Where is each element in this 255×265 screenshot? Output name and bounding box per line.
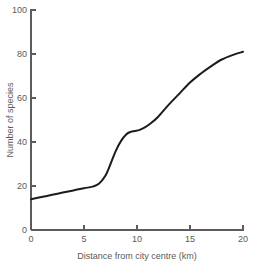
y-tick-label-100: 100 — [12, 5, 27, 15]
chart-canvas: 100 80 60 40 20 0 0 5 10 15 20 Distance … — [0, 0, 255, 265]
x-tick-labels: 0 5 10 15 20 — [28, 234, 248, 244]
x-tick-label-0: 0 — [28, 234, 33, 244]
y-tick-label-60: 60 — [17, 93, 27, 103]
species-distance-chart: 100 80 60 40 20 0 0 5 10 15 20 Distance … — [0, 0, 255, 265]
x-tick-label-5: 5 — [81, 234, 86, 244]
x-tick-marks — [31, 225, 243, 230]
y-tick-marks — [31, 10, 36, 230]
x-tick-label-15: 15 — [185, 234, 195, 244]
y-tick-label-20: 20 — [17, 181, 27, 191]
y-tick-label-80: 80 — [17, 49, 27, 59]
x-tick-label-10: 10 — [132, 234, 142, 244]
y-axis-title: Number of species — [5, 82, 15, 158]
y-tick-label-0: 0 — [22, 225, 27, 235]
y-tick-label-40: 40 — [17, 137, 27, 147]
species-curve — [31, 52, 243, 199]
x-axis-title: Distance from city centre (km) — [77, 251, 197, 261]
x-tick-label-20: 20 — [238, 234, 248, 244]
